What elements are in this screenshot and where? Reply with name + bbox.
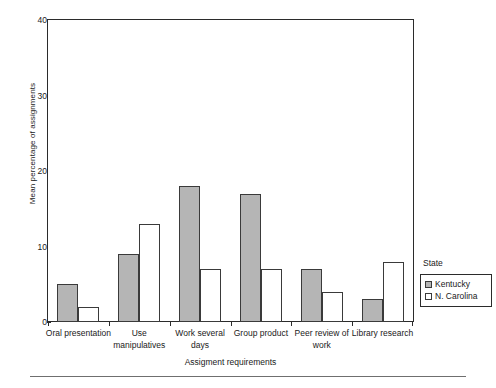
legend-swatch-icon [425,281,432,288]
bar-kentucky[interactable] [362,299,383,322]
x-tick-mark [48,322,49,326]
bar-group [179,20,221,322]
x-category-label: Library research [348,328,417,340]
y-tick-label: 40 [25,15,47,25]
y-tick-label: 0 [25,317,47,327]
x-axis-category-labels: Oral presentationUse manipulativesWork s… [48,328,413,358]
x-tick-mark [412,322,413,326]
bar-kentucky[interactable] [118,254,139,322]
x-axis-title: Assigment requirements [48,357,413,367]
x-category-label: Oral presentation [44,328,113,340]
bar-n-carolina[interactable] [261,269,282,322]
bar-kentucky[interactable] [179,186,200,322]
legend-title: State [420,258,492,268]
legend-item-label: N. Carolina [435,290,478,302]
bar-n-carolina[interactable] [200,269,221,322]
clipped-title-fragment [36,0,416,8]
x-tick-mark [109,322,110,326]
legend-swatch-icon [425,293,432,300]
x-axis-tick-marks [48,322,413,327]
bar-group [118,20,160,322]
legend-item-label: Kentucky [435,278,470,290]
bar-group [240,20,282,322]
legend-item[interactable]: Kentucky [425,278,487,290]
y-axis-tick-labels: 010203040 [0,0,47,388]
x-tick-mark [231,322,232,326]
bar-n-carolina[interactable] [139,224,160,322]
bar-kentucky[interactable] [301,269,322,322]
legend: State KentuckyN. Carolina [420,258,492,307]
legend-box: KentuckyN. Carolina [420,274,492,307]
bottom-divider [30,376,466,377]
x-category-label: Work several days [166,328,235,351]
bar-n-carolina[interactable] [322,292,343,322]
plot-area [48,20,413,322]
bar-n-carolina[interactable] [78,307,99,322]
bar-kentucky[interactable] [57,284,78,322]
x-tick-mark [170,322,171,326]
x-tick-mark [291,322,292,326]
bar-n-carolina[interactable] [383,262,404,322]
bar-group [362,20,404,322]
x-tick-mark [352,322,353,326]
legend-item[interactable]: N. Carolina [425,290,487,302]
bar-group [57,20,99,322]
x-category-label: Group product [227,328,296,340]
x-category-label: Use manipulatives [105,328,174,351]
y-axis-title: Mean percentage of assignments [28,29,37,259]
x-category-label: Peer review of work [287,328,356,351]
bar-kentucky[interactable] [240,194,261,322]
bar-group [301,20,343,322]
